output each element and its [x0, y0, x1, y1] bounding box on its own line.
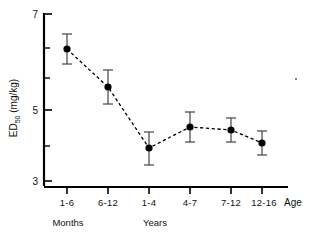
- y-tick-label-7: 7: [32, 9, 38, 20]
- marker-4: [227, 126, 234, 133]
- marker-3: [186, 123, 193, 130]
- y-axis-title-base: ED: [8, 123, 19, 137]
- y-axis-title-unit: (mg/kg): [8, 79, 19, 116]
- marker-5: [258, 139, 265, 146]
- x-axis-title: Age: [284, 197, 302, 208]
- x-tick-label-3: 4-7: [183, 197, 197, 208]
- marker-2: [145, 144, 152, 151]
- y-tick-label-3: 3: [32, 176, 38, 187]
- scan-speck: [295, 78, 297, 80]
- chart-figure: 7 5 3 ED50 (mg/kg) 1-6 6-12 1-4 4-7 7-12…: [0, 0, 314, 233]
- y-tick-label-5: 5: [32, 105, 38, 116]
- x-tick-label-2: 1-4: [142, 197, 156, 208]
- marker-1: [104, 83, 111, 90]
- y-axis-title-sub: 50: [14, 115, 21, 123]
- x-tick-label-0: 1-6: [60, 197, 74, 208]
- ed50-age-line-chart: 7 5 3 ED50 (mg/kg) 1-6 6-12 1-4 4-7 7-12…: [0, 0, 314, 233]
- x-tick-label-1: 6-12: [98, 197, 118, 208]
- group-label-years: Years: [143, 217, 167, 228]
- x-tick-label-5: 12-16: [251, 197, 276, 208]
- x-tick-label-4: 7-12: [221, 197, 241, 208]
- marker-0: [63, 45, 70, 52]
- group-label-months: Months: [52, 217, 83, 228]
